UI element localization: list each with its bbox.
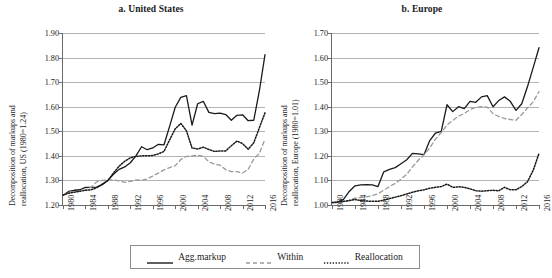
legend-item-agg-markup: Agg.markup bbox=[147, 252, 226, 262]
y-tick-label: 1.70 bbox=[45, 78, 59, 87]
x-tick-mark bbox=[470, 205, 471, 209]
y-axis-label-b-line1: Decomposition of markups and bbox=[280, 105, 290, 206]
y-tick-label: 1.70 bbox=[314, 29, 328, 38]
legend-item-reallocation: Reallocation bbox=[324, 252, 403, 262]
y-tick-label: 1.40 bbox=[314, 102, 328, 111]
legend-label-within: Within bbox=[277, 252, 303, 262]
series-line-agg-markup bbox=[63, 55, 265, 196]
x-tick-mark bbox=[130, 205, 131, 209]
series-layer bbox=[332, 33, 539, 205]
x-tick-mark bbox=[85, 205, 86, 209]
x-axis-ticks-b: 1980198419881992199620002004200820122016 bbox=[332, 205, 539, 245]
x-tick-mark bbox=[332, 205, 333, 209]
x-tick-mark bbox=[243, 205, 244, 209]
x-tick-mark bbox=[539, 205, 540, 209]
y-tick-label: 1.20 bbox=[45, 201, 59, 210]
y-axis-label-a-line2: reallocation, US (1980=1.24) bbox=[19, 112, 29, 206]
x-tick-mark bbox=[401, 205, 402, 209]
x-tick-mark bbox=[198, 205, 199, 209]
legend-label-reallocation: Reallocation bbox=[355, 252, 403, 262]
y-axis-label-b-line2: reallocation, Europe (1980=1.01) bbox=[291, 99, 301, 206]
y-tick-label: 1.20 bbox=[314, 151, 328, 160]
legend-swatch-reallocation bbox=[324, 253, 350, 261]
y-tick-label: 1.90 bbox=[45, 29, 59, 38]
series-line-agg-markup bbox=[332, 48, 539, 203]
panel-title-a: a. United States bbox=[0, 4, 274, 14]
series-line-within bbox=[332, 91, 539, 203]
panel-title-b: b. Europe bbox=[274, 4, 548, 14]
x-tick-mark bbox=[355, 205, 356, 209]
y-tick-label: 1.50 bbox=[314, 78, 328, 87]
x-axis-line bbox=[63, 205, 265, 206]
x-axis-ticks-a: 1980198419881992199620002004200820122016 bbox=[63, 205, 265, 245]
series-layer bbox=[63, 33, 265, 205]
x-tick-mark bbox=[493, 205, 494, 209]
x-tick-mark bbox=[153, 205, 154, 209]
y-tick-label: 1.60 bbox=[45, 102, 59, 111]
x-axis-line bbox=[332, 205, 539, 206]
x-tick-mark bbox=[424, 205, 425, 209]
series-line-reallocation bbox=[332, 153, 539, 202]
y-tick-label: 1.80 bbox=[45, 53, 59, 62]
x-tick-mark bbox=[516, 205, 517, 209]
y-axis-label-a-line1: Decomposition of markups and bbox=[8, 105, 18, 206]
y-tick-label: 1.10 bbox=[314, 176, 328, 185]
x-tick-mark bbox=[175, 205, 176, 209]
x-tick-mark bbox=[447, 205, 448, 209]
legend-label-agg-markup: Agg.markup bbox=[178, 252, 226, 262]
plot-area-b: 1980198419881992199620002004200820122016 bbox=[331, 33, 539, 205]
chart-legend: Agg.markup Within Reallocation bbox=[130, 245, 420, 269]
chart-panel-united-states: a. United States Decomposition of markup… bbox=[0, 0, 274, 240]
x-tick-mark bbox=[108, 205, 109, 209]
x-tick-label: 2016 bbox=[543, 195, 552, 211]
y-tick-label: 1.50 bbox=[45, 127, 59, 136]
legend-swatch-agg-markup bbox=[147, 253, 173, 261]
x-tick-mark bbox=[220, 205, 221, 209]
y-tick-label: 1.40 bbox=[45, 151, 59, 160]
y-tick-label: 1.30 bbox=[314, 127, 328, 136]
y-tick-label: 1.60 bbox=[314, 53, 328, 62]
legend-item-within: Within bbox=[246, 252, 303, 262]
x-tick-mark bbox=[378, 205, 379, 209]
x-tick-mark bbox=[265, 205, 266, 209]
y-tick-label: 1.00 bbox=[314, 201, 328, 210]
y-tick-label: 1.30 bbox=[45, 176, 59, 185]
legend-swatch-within bbox=[246, 253, 272, 261]
chart-panel-europe: b. Europe Decomposition of markups and r… bbox=[274, 0, 548, 240]
plot-area-a: 1980198419881992199620002004200820122016 bbox=[62, 33, 265, 205]
x-tick-mark bbox=[63, 205, 64, 209]
series-line-reallocation bbox=[63, 113, 265, 195]
